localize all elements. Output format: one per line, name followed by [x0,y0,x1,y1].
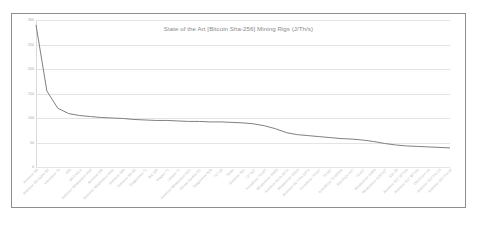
series-polyline [36,25,450,148]
y-tick-label: 300 [28,18,34,22]
x-tick-label: T2T-30 [213,168,224,179]
y-tick-label: 150 [28,92,34,96]
plot-area: 050100150200250300 [36,20,450,167]
y-tick-label: 250 [28,43,34,47]
chart-frame: State of the Art [Bitcoin Sha-256] Minin… [11,13,466,208]
y-tick-label: 100 [28,116,34,120]
line-series [36,20,450,167]
y-tick-label: 50 [30,141,34,145]
x-axis-labels: Antminer S9Antminer S9 Hydro SEAntminer … [36,168,450,220]
y-tick-label: 200 [28,67,34,71]
x-tick-label: Innosilicon T3 64T [299,168,322,191]
x-tick-label: E9+ [64,168,71,175]
